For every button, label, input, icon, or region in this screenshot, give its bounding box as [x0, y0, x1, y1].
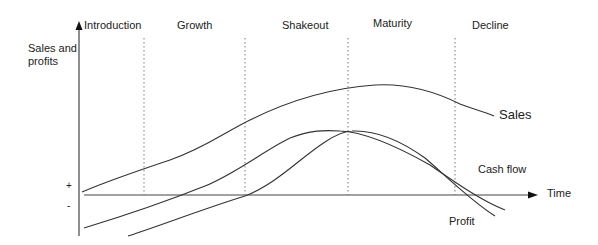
stage-decline-label: Decline [472, 20, 509, 31]
stage-growth-label: Growth [177, 20, 212, 31]
cashflow-series-label: Cash flow [478, 164, 526, 175]
y-axis-label: Sales and profits [28, 42, 88, 68]
minus-marker: - [67, 201, 70, 211]
plus-marker: + [66, 181, 72, 191]
x-axis-arrow-icon [528, 192, 538, 199]
profit-series-label: Profit [449, 216, 475, 227]
stage-shakeout-label: Shakeout [282, 20, 328, 31]
y-axis-arrow-icon [76, 21, 83, 30]
stage-maturity-label: Maturity [373, 18, 412, 29]
stage-introduction-label: Introduction [84, 20, 141, 31]
sales-series-label: Sales [499, 108, 532, 121]
lifecycle-chart [0, 0, 598, 245]
stage-dividers [144, 38, 455, 195]
profit-curve [128, 131, 495, 236]
x-axis-label: Time [547, 188, 571, 199]
cashflow-curve [84, 131, 505, 228]
